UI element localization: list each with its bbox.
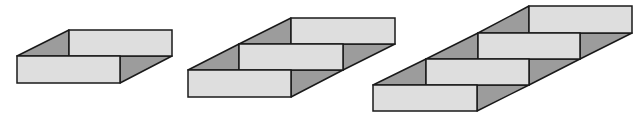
figure-canvas	[0, 0, 641, 117]
slab-front-face	[478, 33, 580, 59]
right-shadow-face	[291, 70, 343, 97]
slab-front-face	[239, 44, 343, 70]
right-shadow-face	[477, 85, 529, 111]
right-shadow-face	[120, 56, 172, 83]
shapes-root	[17, 6, 632, 111]
left-shadow-face	[478, 6, 529, 33]
right-shadow-face	[529, 59, 580, 85]
slab-front-face	[529, 6, 632, 33]
four-slab-structure	[373, 6, 632, 111]
slab-front-face	[373, 85, 477, 111]
left-shadow-face	[188, 44, 239, 70]
slab-front-face	[188, 70, 291, 97]
slab-front-face	[291, 18, 395, 44]
slab-front-face	[69, 30, 172, 56]
right-shadow-face	[343, 44, 395, 70]
three-slab-structure	[188, 18, 395, 97]
left-shadow-face	[17, 30, 69, 56]
two-slab-structure	[17, 30, 172, 83]
right-shadow-face	[580, 33, 632, 59]
left-shadow-face	[426, 33, 478, 59]
left-shadow-face	[239, 18, 291, 44]
slab-front-face	[426, 59, 529, 85]
left-shadow-face	[373, 59, 426, 85]
slab-front-face	[17, 56, 120, 83]
